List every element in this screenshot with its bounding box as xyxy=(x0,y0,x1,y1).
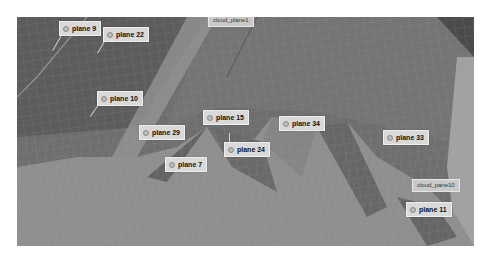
plane-label-text: plane 11 xyxy=(419,206,447,213)
plane-icon xyxy=(387,135,393,141)
plane-icon xyxy=(169,162,175,168)
plane-icon xyxy=(207,115,213,121)
plane-icon xyxy=(410,207,416,213)
plane-label-text: plane 7 xyxy=(178,161,202,168)
plane-icon xyxy=(228,147,234,153)
plane-label-text: plane 33 xyxy=(396,134,424,141)
plane-label-22[interactable]: plane 22 xyxy=(103,27,149,42)
cloud-label-plane1[interactable]: cloud_plane1 xyxy=(208,17,254,27)
plane-label-10[interactable]: plane 10 xyxy=(97,91,143,106)
plane-icon xyxy=(63,26,69,32)
plane-label-text: plane 29 xyxy=(152,129,180,136)
plane-label-text: plane 24 xyxy=(237,146,265,153)
plane-label-text: plane 10 xyxy=(110,95,138,102)
plane-icon xyxy=(107,32,113,38)
plane-label-9[interactable]: plane 9 xyxy=(59,21,101,36)
plane-icon xyxy=(143,130,149,136)
plane-label-24[interactable]: plane 24 xyxy=(224,142,270,157)
plane-icon xyxy=(101,96,107,102)
plane-label-7[interactable]: plane 7 xyxy=(165,157,207,172)
plane-label-text: plane 34 xyxy=(292,120,320,127)
plane-label-33[interactable]: plane 33 xyxy=(383,130,429,145)
plane-label-text: plane 22 xyxy=(116,31,144,38)
cloud-label-plane10[interactable]: cloud_pane10 xyxy=(412,179,460,192)
plane-label-text: plane 15 xyxy=(216,114,244,121)
plane-label-34[interactable]: plane 34 xyxy=(279,116,325,131)
plane-label-29[interactable]: plane 29 xyxy=(139,125,185,140)
plane-label-11[interactable]: plane 11 xyxy=(406,202,452,217)
point-cloud-viewport[interactable]: plane 9 plane 22 plane 10 plane 29 plane… xyxy=(17,17,474,246)
plane-label-15[interactable]: plane 15 xyxy=(203,110,249,125)
plane-label-text: plane 9 xyxy=(72,25,96,32)
plane-icon xyxy=(283,121,289,127)
